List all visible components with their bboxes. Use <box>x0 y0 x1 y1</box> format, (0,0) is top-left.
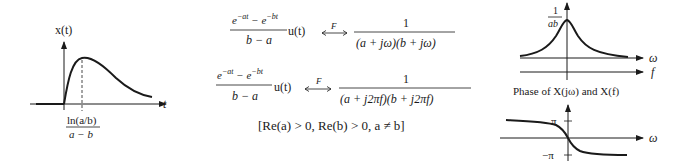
pair1-lhs-numerator: e−at − e−bt <box>232 12 279 26</box>
omega-axis-label: ω <box>649 51 657 65</box>
pair2-lhs-denominator: b − a <box>232 89 258 103</box>
t-axis-label: t <box>163 97 167 111</box>
pair1-fourier-operator: F <box>330 21 337 31</box>
magnitude-peak-denominator: ab <box>548 18 558 29</box>
phase-omega-label: ω <box>649 131 657 145</box>
magnitude-plot: 1 ab ω f <box>520 3 657 80</box>
pair1-lhs-denominator: b − a <box>246 33 272 47</box>
transform-pair-omega: e−at − e−bt b − a u(t) F 1 (a + jω)(b + … <box>230 12 455 50</box>
pair1-double-arrow-icon <box>322 31 347 36</box>
fourier-pair-diagram: x(t) t ln(a/b) a − b e−at − e−bt b − a u… <box>0 0 685 161</box>
signal-curve <box>64 58 152 104</box>
phase-plot-title: Phase of X(jω) and X(f) <box>513 85 620 98</box>
pair2-lhs-numerator: e−at − e−bt <box>217 67 264 81</box>
pair1-rhs-denominator: (a + jω)(b + jω) <box>356 36 436 50</box>
convergence-condition: [Re(a) > 0, Re(b) > 0, a ≠ b] <box>258 118 405 133</box>
pair2-fourier-operator: F <box>315 76 322 86</box>
peak-time-denominator: a − b <box>69 128 93 140</box>
pair2-lhs-suffix: u(t) <box>274 80 291 94</box>
phase-plot: Phase of X(jω) and X(f) π −π ω <box>500 85 657 161</box>
pair1-rhs-numerator: 1 <box>403 16 409 30</box>
magnitude-curve <box>520 20 628 57</box>
time-domain-plot: x(t) t ln(a/b) a − b <box>30 23 167 140</box>
transform-pair-frequency: e−at − e−bt b − a u(t) F 1 (a + j2πf)(b … <box>216 67 471 106</box>
pair2-rhs-denominator: (a + j2πf)(b + j2πf) <box>340 92 434 106</box>
pi-label: π <box>551 115 557 127</box>
y-axis-label: x(t) <box>55 23 72 37</box>
minus-pi-label: −π <box>542 149 554 161</box>
pair1-lhs-suffix: u(t) <box>288 24 305 38</box>
pair2-rhs-numerator: 1 <box>403 72 409 86</box>
f-axis-label: f <box>651 65 656 79</box>
peak-time-numerator: ln(a/b) <box>67 114 97 127</box>
magnitude-peak-numerator: 1 <box>553 5 558 16</box>
pair2-double-arrow-icon <box>305 87 331 92</box>
